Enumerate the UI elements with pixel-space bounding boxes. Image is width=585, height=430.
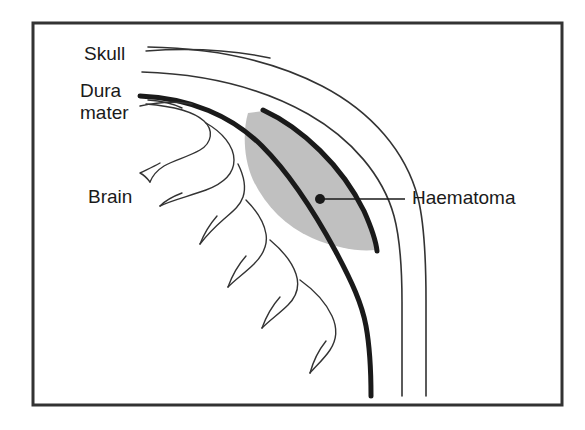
label-dura: Dura — [80, 80, 122, 101]
haematoma-marker-dot — [315, 194, 325, 204]
figure-root: Skull Dura mater Brain Haematoma — [0, 0, 585, 430]
label-brain: Brain — [88, 186, 132, 207]
label-haematoma: Haematoma — [412, 187, 516, 208]
label-mater: mater — [80, 102, 129, 123]
anatomical-diagram-svg: Skull Dura mater Brain Haematoma — [0, 0, 585, 430]
label-skull: Skull — [84, 43, 125, 64]
